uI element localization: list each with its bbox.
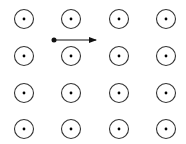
field-out-of-page-icon: [62, 120, 81, 139]
moving-particle: [52, 38, 97, 43]
field-out-of-page-grid: [15, 10, 176, 139]
field-out-of-page-icon: [157, 47, 176, 66]
field-out-of-page-icon: [157, 84, 176, 103]
field-out-of-page-icon: [110, 10, 129, 29]
field-out-of-page-icon: [15, 47, 34, 66]
field-out-of-page-icon: [157, 10, 176, 29]
field-out-of-page-icon: [62, 47, 81, 66]
magnetic-field-diagram: [0, 0, 186, 144]
field-out-of-page-icon: [157, 120, 176, 139]
field-out-of-page-icon: [62, 84, 81, 103]
field-out-of-page-icon: [15, 120, 34, 139]
field-out-of-page-icon: [110, 120, 129, 139]
diagram-canvas: [0, 0, 186, 144]
field-out-of-page-icon: [62, 10, 81, 29]
field-out-of-page-icon: [110, 47, 129, 66]
field-out-of-page-icon: [15, 84, 34, 103]
field-out-of-page-icon: [110, 84, 129, 103]
charged-particle-icon: [52, 38, 57, 43]
field-out-of-page-icon: [15, 10, 34, 29]
